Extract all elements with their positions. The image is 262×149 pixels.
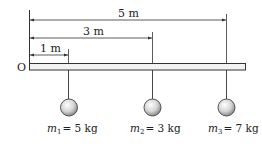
origin-label: O — [17, 61, 26, 74]
mass-label-2: m2= 3 kg — [130, 122, 181, 136]
mass-3: m3= 7 kg — [208, 70, 259, 136]
dimension-label-5m: 5 m — [118, 7, 139, 20]
dimension-label-3m: 3 m — [83, 25, 104, 38]
ball-1 — [61, 99, 78, 116]
dimension-1m: 1 m — [30, 42, 69, 64]
rod — [30, 64, 246, 71]
ball-2 — [144, 99, 161, 116]
moment-diagram: O 5 m 3 m 1 m m1= 5 kg m2= 3 kg — [0, 0, 262, 149]
mass-2: m2= 3 kg — [130, 70, 181, 136]
ball-3 — [218, 99, 235, 116]
mass-label-1: m1= 5 kg — [47, 122, 98, 136]
dimension-5m: 5 m — [30, 7, 227, 64]
mass-1: m1= 5 kg — [47, 70, 98, 136]
dimension-label-1m: 1 m — [40, 42, 61, 55]
mass-label-3: m3= 7 kg — [208, 122, 259, 136]
